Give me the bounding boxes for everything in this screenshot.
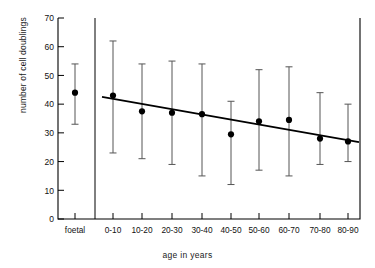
axis-frame: [58, 18, 360, 219]
x-axis-tick-marks: [75, 213, 348, 219]
error-bars: [72, 41, 352, 185]
plot-border: [58, 18, 360, 219]
y-axis-tick-marks: [58, 18, 64, 219]
plot-svg: [0, 0, 375, 268]
cell-doublings-scatter-chart: number of cell doublings age in years 70…: [0, 0, 375, 268]
plot-canvas: [0, 0, 375, 268]
